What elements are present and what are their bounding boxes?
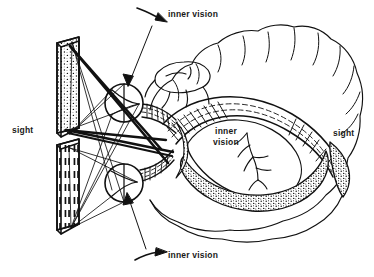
crossing-ray-bundle [66,46,173,163]
stippled-ventral-tract [181,142,350,211]
curved-arrow-top [137,8,167,22]
label-sight-right: sight [333,128,354,138]
label-inner-vision-top: inner vision [168,9,218,19]
label-inner-vision-bottom: inner vision [168,250,218,260]
diagram-svg [0,0,374,277]
label-sight-left: sight [12,125,33,135]
curved-arrow-bottom [135,248,167,260]
lower-eye-globe [105,164,143,202]
label-inner-vision-center-line1: inner [215,126,237,136]
diagram-canvas: inner vision inner vision inner vision s… [0,0,374,277]
label-inner-vision-center: inner vision [205,126,247,147]
label-inner-vision-center-line2: vision [213,137,239,147]
upper-eye-globe [105,84,143,122]
cerebral-cortex-gyri [173,28,360,134]
